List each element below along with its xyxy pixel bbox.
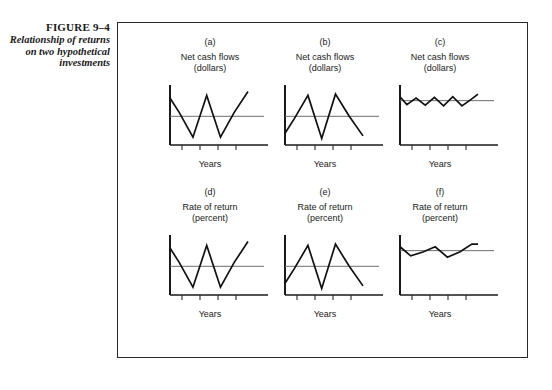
x-axis-label-b: Years — [261, 159, 389, 170]
x-axis-label-c: Years — [376, 159, 504, 170]
panel-label-c: (c) — [376, 37, 504, 48]
plot-area-b — [261, 77, 389, 157]
plot-area-a — [146, 77, 274, 157]
data-series-d — [170, 242, 248, 288]
plot-area-d — [146, 227, 274, 307]
plot-area-c — [376, 77, 504, 157]
figure-description: Relationship of returns on two hypotheti… — [6, 34, 110, 69]
chart-panel-f: (f)Rate of return (percent)Years — [376, 187, 504, 333]
data-series-c — [400, 94, 478, 106]
x-axis-label-d: Years — [146, 309, 274, 320]
panel-label-a: (a) — [146, 37, 274, 48]
plot-area-f — [376, 227, 504, 307]
data-series-a — [170, 92, 248, 138]
y-axis-label-b: Net cash flows (dollars) — [261, 52, 389, 73]
figure-number: FIGURE 9–4 — [6, 22, 110, 34]
y-axis-label-d: Rate of return (percent) — [146, 202, 274, 223]
figure-caption: FIGURE 9–4 Relationship of returns on tw… — [6, 22, 110, 69]
plot-area-e — [261, 227, 389, 307]
chart-panel-a: (a)Net cash flows (dollars)Years — [146, 37, 274, 183]
panel-label-e: (e) — [261, 187, 389, 198]
y-axis-label-e: Rate of return (percent) — [261, 202, 389, 223]
figure-frame: (a)Net cash flows (dollars)Years(b)Net c… — [117, 22, 528, 358]
chart-panel-e: (e)Rate of return (percent)Years — [261, 187, 389, 333]
chart-panel-b: (b)Net cash flows (dollars)Years — [261, 37, 389, 183]
x-axis-label-a: Years — [146, 159, 274, 170]
y-axis-label-f: Rate of return (percent) — [376, 202, 504, 223]
chart-panel-c: (c)Net cash flows (dollars)Years — [376, 37, 504, 183]
panel-label-b: (b) — [261, 37, 389, 48]
chart-panel-d: (d)Rate of return (percent)Years — [146, 187, 274, 333]
x-axis-label-f: Years — [376, 309, 504, 320]
y-axis-label-a: Net cash flows (dollars) — [146, 52, 274, 73]
x-axis-label-e: Years — [261, 309, 389, 320]
panel-label-d: (d) — [146, 187, 274, 198]
y-axis-label-c: Net cash flows (dollars) — [376, 52, 504, 73]
panel-label-f: (f) — [376, 187, 504, 198]
